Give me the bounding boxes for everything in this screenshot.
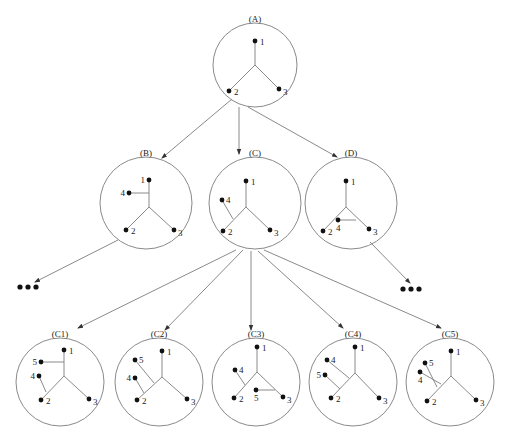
leaf-label: 3 xyxy=(383,396,388,406)
leaf-label: 5 xyxy=(317,370,322,380)
leaf-label: 5 xyxy=(33,357,38,367)
leaf-label: 4 xyxy=(121,188,126,198)
leaf-label: 5 xyxy=(254,393,259,403)
leaf-label: 5 xyxy=(139,355,144,365)
leaf-label: 1 xyxy=(260,37,265,47)
leaf-dot xyxy=(227,89,232,94)
leaf-dot xyxy=(87,397,92,402)
tree-branch xyxy=(223,207,246,231)
leaf-label: 4 xyxy=(31,371,36,381)
tree-branch xyxy=(355,373,379,398)
tree-branch xyxy=(451,376,476,400)
leaf-dot xyxy=(135,398,140,403)
leaf-dot xyxy=(323,373,328,378)
more-children-left-ellipsis xyxy=(17,284,38,289)
leaf-label: 1 xyxy=(69,346,74,356)
leaf-label: 1 xyxy=(456,347,461,357)
node-label: (C5) xyxy=(442,329,459,339)
leaf-label: 3 xyxy=(178,228,183,238)
leaf-dot xyxy=(268,228,273,233)
leaf-label: 1 xyxy=(141,175,146,185)
ellipsis-dot xyxy=(400,286,405,291)
node-label: (C2) xyxy=(151,329,168,339)
edge-A-to-D xyxy=(248,107,337,157)
leaf-dot xyxy=(244,179,249,184)
leaf-label: 4 xyxy=(336,223,341,233)
leaf-label: 2 xyxy=(336,394,341,404)
edge-C-to-C2 xyxy=(165,250,243,330)
node-C3: (C3)12345 xyxy=(212,329,300,426)
more-children-right-ellipsis xyxy=(400,286,421,291)
edges-layer xyxy=(35,99,441,330)
leaf-dot xyxy=(37,374,42,379)
leaf-dot xyxy=(172,228,177,233)
leaf-dot xyxy=(124,228,129,233)
leaf-label: 1 xyxy=(167,347,172,357)
leaf-dot xyxy=(253,39,258,44)
edge-C-to-C5 xyxy=(264,250,441,328)
leaf-dot xyxy=(321,229,326,234)
leaf-dot xyxy=(425,399,430,404)
tree-branch xyxy=(255,65,279,89)
tree-branch xyxy=(346,207,369,229)
node-circle xyxy=(212,338,300,426)
leaf-dot xyxy=(39,398,44,403)
leaf-label: 2 xyxy=(142,396,147,406)
edge-B-to-more-left xyxy=(35,240,118,282)
leaf-label: 1 xyxy=(251,177,256,187)
leaf-dot xyxy=(221,229,226,234)
leaf-dot xyxy=(344,179,349,184)
leaf-dot xyxy=(133,376,138,381)
node-circle xyxy=(305,157,397,249)
leaf-dot xyxy=(336,218,341,223)
leaf-label: 2 xyxy=(239,394,244,404)
leaf-dot xyxy=(325,358,330,363)
node-C2: (C2)12345 xyxy=(115,329,203,426)
node-label: (A) xyxy=(249,14,262,24)
leaf-dot xyxy=(39,360,44,365)
leaf-dot xyxy=(449,349,454,354)
tree-branch-leaf-4 xyxy=(39,376,46,392)
leaf-dot xyxy=(232,396,237,401)
edge-C-to-C4 xyxy=(258,251,343,328)
node-label: (C3) xyxy=(248,329,265,339)
leaf-label: 1 xyxy=(360,343,365,353)
node-C5: (C5)12345 xyxy=(406,329,494,426)
tree-branch xyxy=(162,377,187,399)
leaf-dot xyxy=(254,388,259,393)
leaf-label: 2 xyxy=(228,227,233,237)
leaf-dot xyxy=(367,227,372,232)
node-circle xyxy=(209,157,301,249)
leaf-label: 4 xyxy=(331,355,336,365)
tree-branch xyxy=(64,376,89,399)
leaf-label: 2 xyxy=(131,226,136,236)
leaf-label: 4 xyxy=(418,375,423,385)
node-label: (C4) xyxy=(345,329,362,339)
node-C: (C)1234 xyxy=(209,148,301,249)
leaf-label: 1 xyxy=(262,343,267,353)
ellipsis-dot xyxy=(17,284,22,289)
leaf-label: 3 xyxy=(480,398,485,408)
tree-branch xyxy=(229,65,255,91)
node-circle xyxy=(16,338,104,426)
leaf-dot xyxy=(329,396,334,401)
tree-branch-leaf-5 xyxy=(135,360,154,383)
leaf-dot xyxy=(377,396,382,401)
leaf-dot xyxy=(62,348,67,353)
tree-branch xyxy=(246,207,270,230)
leaf-dot xyxy=(281,395,286,400)
tree-branch xyxy=(427,376,451,401)
tree-branch xyxy=(257,372,283,397)
node-C4: (C4)12345 xyxy=(309,329,397,426)
tree-branch xyxy=(323,207,346,231)
tree-branch xyxy=(331,373,355,398)
leaf-dot xyxy=(255,345,260,350)
edge-A-to-B xyxy=(162,99,232,158)
leaf-label: 3 xyxy=(93,397,98,407)
tree-branch xyxy=(149,207,174,230)
leaf-label: 2 xyxy=(432,397,437,407)
nodes-layer: (A)123(B)1234(C)1234(D)1234(C1)12345(C2)… xyxy=(16,14,494,426)
leaf-label: 3 xyxy=(287,395,292,405)
leaf-dot xyxy=(133,358,138,363)
ellipsis-dot xyxy=(33,284,38,289)
